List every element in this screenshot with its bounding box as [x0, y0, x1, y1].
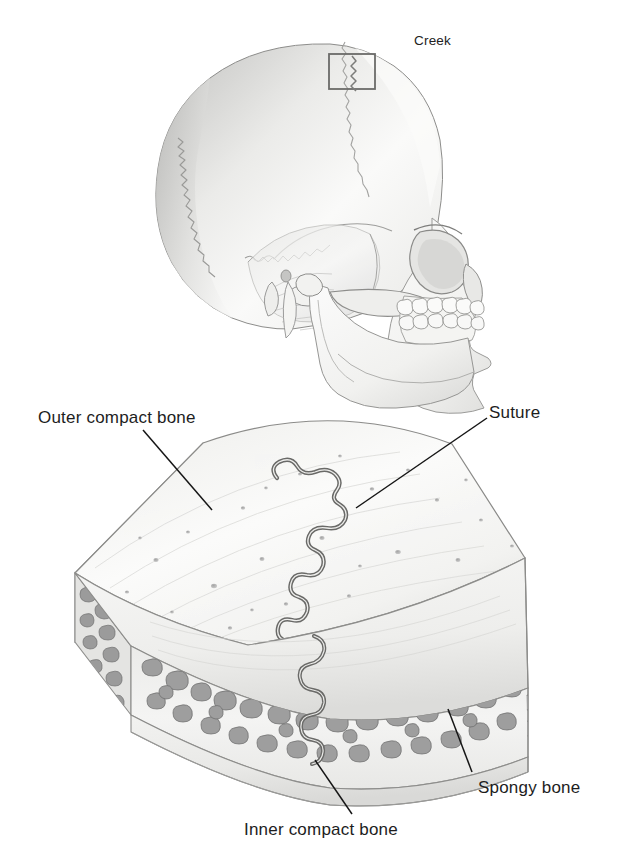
external-acoustic-meatus — [281, 270, 291, 282]
label-suture: Suture — [489, 404, 540, 421]
flat-bone-block-diagram — [75, 418, 534, 814]
figure-root: Creek Outer compact bone Suture Spongy b… — [0, 0, 630, 860]
illustration-canvas — [0, 0, 630, 860]
skull-lateral-view — [156, 42, 491, 413]
label-outer-compact-bone: Outer compact bone — [38, 409, 196, 426]
artist-signature: Creek — [414, 34, 451, 48]
label-inner-compact-bone: Inner compact bone — [244, 821, 398, 838]
label-spongy-bone: Spongy bone — [478, 779, 580, 796]
